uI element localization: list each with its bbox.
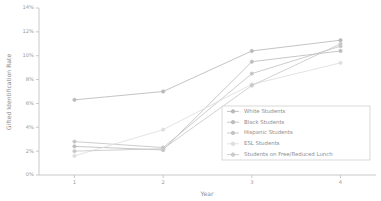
y-tick-label: 12% (22, 28, 34, 34)
chart-legend: White StudentsBlack StudentsHispanic Stu… (222, 106, 370, 160)
y-tick-label: 6% (26, 100, 34, 106)
x-tick-label: 4 (339, 179, 343, 185)
series-data-point (250, 60, 253, 63)
series-data-point (250, 72, 253, 75)
x-axis-ticks: 1234 (73, 175, 343, 185)
series-data-point (339, 49, 342, 52)
series-data-point (161, 90, 164, 93)
series-data-point (161, 128, 164, 131)
legend-marker-icon (231, 153, 234, 156)
series-data-point (339, 61, 342, 64)
series-data-point (339, 39, 342, 42)
legend-marker-icon (231, 121, 234, 124)
legend-label: Black Students (244, 119, 285, 125)
series-line (74, 40, 340, 100)
legend-label: Students on Free/Reduced Lunch (244, 151, 333, 157)
series-data-point (250, 49, 253, 52)
chart-series (73, 39, 342, 102)
y-tick-label: 10% (22, 52, 34, 58)
line-chart: 0%2%4%6%8%10%12%14% 1234 Year Gifted Ide… (0, 0, 381, 201)
series-data-point (73, 149, 76, 152)
y-tick-label: 14% (22, 4, 34, 10)
legend-marker-icon (231, 142, 234, 145)
legend-marker-icon (231, 131, 234, 134)
legend-label: Hispanic Students (244, 129, 293, 136)
series-data-point (73, 154, 76, 157)
series-data-point (73, 140, 76, 143)
y-tick-label: 8% (26, 76, 34, 82)
x-tick-label: 1 (73, 179, 76, 185)
legend-marker-icon (231, 110, 234, 113)
legend-label: White Students (244, 108, 286, 114)
y-axis-ticks: 0%2%4%6%8%10%12%14% (22, 4, 39, 177)
series-data-point (250, 84, 253, 87)
y-tick-label: 4% (26, 124, 34, 130)
series-data-point (73, 98, 76, 101)
x-tick-label: 3 (250, 179, 253, 185)
series-data-point (73, 145, 76, 148)
x-axis-title: Year (200, 190, 214, 197)
legend-label: ESL Students (244, 140, 280, 146)
series-data-point (161, 147, 164, 150)
x-tick-label: 2 (162, 179, 165, 185)
y-tick-label: 2% (26, 148, 34, 154)
series-data-point (339, 42, 342, 45)
chart-container: 0%2%4%6%8%10%12%14% 1234 Year Gifted Ide… (0, 0, 381, 201)
y-axis-title: Gifted Identification Rate (5, 54, 12, 131)
y-tick-label: 0% (26, 171, 34, 177)
